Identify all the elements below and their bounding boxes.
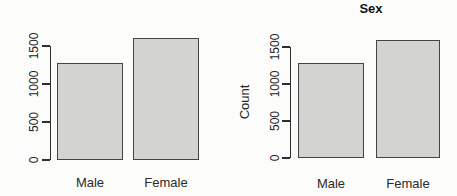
bar-female — [376, 40, 440, 158]
y-axis-tick — [42, 121, 50, 123]
y-axis-tick-label: 500 — [27, 112, 41, 132]
y-axis-tick — [42, 159, 50, 161]
y-axis-tick-label: 1500 — [268, 34, 282, 61]
y-axis-tick — [282, 157, 290, 159]
right-chart-ylabel: Count — [237, 85, 252, 120]
y-axis — [290, 47, 292, 158]
y-axis-tick — [42, 83, 50, 85]
y-axis-tick — [282, 83, 290, 85]
bar-female — [133, 38, 199, 160]
y-axis-tick-label: 0 — [268, 155, 282, 162]
x-category-label: Male — [317, 176, 345, 191]
y-axis-tick-label: 1500 — [27, 33, 41, 60]
bar-male — [298, 63, 364, 158]
x-category-label: Female — [386, 176, 429, 191]
x-category-label: Female — [144, 175, 187, 190]
y-axis-tick — [42, 45, 50, 47]
y-axis — [50, 46, 52, 160]
y-axis-tick-label: 1000 — [268, 71, 282, 98]
bar-male — [57, 63, 123, 160]
right-chart-title: Sex — [359, 1, 382, 16]
y-axis-tick-label: 1000 — [27, 71, 41, 98]
x-category-label: Male — [76, 175, 104, 190]
y-axis-tick — [282, 46, 290, 48]
y-axis-tick — [282, 120, 290, 122]
scanned-barplot-figure: Sex Count 050010001500MaleFemale05001000… — [0, 0, 457, 196]
y-axis-tick-label: 0 — [27, 157, 41, 164]
y-axis-tick-label: 500 — [268, 111, 282, 131]
